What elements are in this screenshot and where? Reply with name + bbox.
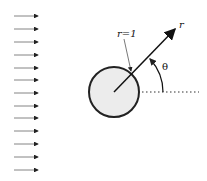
- theta-label: θ: [162, 61, 168, 72]
- uniform-flow-arrows: [14, 16, 38, 170]
- radius-pointer: [124, 39, 131, 71]
- radius-label: r=1: [117, 28, 137, 39]
- flow-diagram: r=1 r θ: [0, 0, 207, 181]
- radial-axis-label: r: [179, 19, 185, 30]
